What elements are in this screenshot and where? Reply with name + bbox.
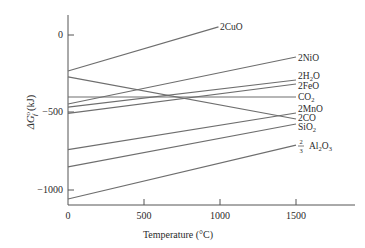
svg-text:ΔGof(kJ): ΔGof(kJ) — [24, 94, 39, 130]
series-line-2co — [68, 77, 296, 119]
line-labels: 2CuO 2NiO 2H2O 2FeO CO2 2MnO 2CO SiO2 2 … — [220, 22, 332, 154]
svg-text:3: 3 — [299, 147, 302, 154]
y-tick-label: −1000 — [37, 184, 63, 195]
svg-text:Al2O3: Al2O3 — [309, 141, 332, 152]
series-line-2mno — [68, 113, 296, 150]
x-tick-label: 1000 — [210, 210, 230, 221]
label-2feo: 2FeO — [298, 81, 319, 91]
data-lines — [68, 27, 296, 199]
y-tick-labels: 0 −500 −1000 — [37, 29, 63, 195]
series-line-2feo — [68, 84, 296, 113]
y-axis-title: ΔGof(kJ) — [24, 94, 39, 130]
x-axis-title: Temperature (°C) — [143, 229, 213, 241]
label-sio2: SiO2 — [298, 122, 316, 133]
x-tick-label: 0 — [66, 210, 71, 221]
series-line-sio2 — [68, 124, 296, 167]
label-co2: CO2 — [298, 92, 314, 103]
series-line-2h2o — [68, 80, 296, 107]
y-tick-label: −500 — [42, 106, 63, 117]
gibbs-energy-chart: 0 −500 −1000 0 500 1000 1500 Temperature… — [0, 0, 365, 248]
svg-text:2: 2 — [299, 138, 302, 145]
series-line-2cuo — [68, 27, 219, 71]
y-tick-label: 0 — [58, 29, 63, 40]
series-line-2-3-al2o3 — [68, 145, 296, 199]
x-tick-labels: 0 500 1000 1500 — [66, 210, 307, 221]
x-tick-label: 1500 — [286, 210, 306, 221]
label-al2o3: 2 3 Al2O3 — [298, 138, 332, 154]
x-tick-label: 500 — [137, 210, 152, 221]
label-2nio: 2NiO — [298, 53, 319, 63]
label-2cuo: 2CuO — [220, 22, 243, 32]
